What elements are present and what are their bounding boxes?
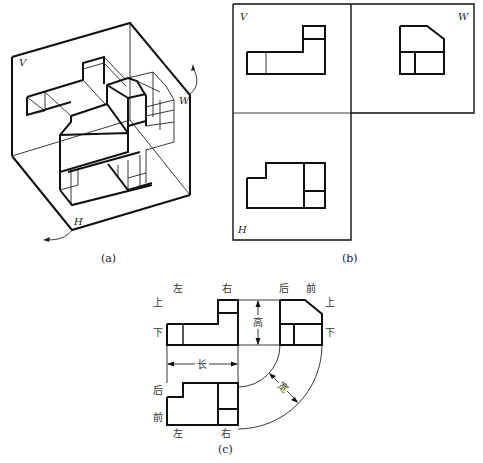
side-view-outline [400,26,444,74]
dimension-label-height: 高 [253,316,263,328]
panel-a-isometric: V W H (a) [12,23,197,265]
label-front-right: 右 [222,282,232,294]
object-front-block [60,116,128,172]
arrowhead-icon [291,397,298,403]
object-edge [83,57,104,84]
plane-label-v: V [19,57,28,68]
object-edge [27,80,83,97]
plane-label-h: H [237,224,247,235]
plane-label-w: W [458,11,469,22]
panel-b-unfolded-planes: V W H (b) [233,4,474,265]
object-edge [83,63,104,69]
label-top-left: 左 [173,427,183,439]
label-side-front: 前 [306,282,316,294]
plane-label-v: V [240,11,249,22]
plane-v-h-frame [233,4,351,240]
object-edge [27,97,71,115]
arrowhead-icon [256,300,261,307]
object-edge [60,185,78,190]
top-view-outline [247,163,325,208]
rotation-arrow-h [46,230,72,240]
plane-h-outline [12,156,190,230]
caption-c: (c) [218,443,233,456]
object-edge [68,152,140,172]
three-view-projection-figure: V W H (a) V W H (b) [0,0,483,463]
plane-label-h: H [73,216,83,227]
object-back-edge [128,72,174,150]
label-front-left: 左 [173,282,183,294]
arrowhead-icon [269,373,276,379]
caption-a: (a) [101,252,116,265]
label-top-right: 右 [221,427,231,439]
width-arc-inner [238,345,280,387]
plane-v-w-outline [12,23,190,195]
label-top-back: 后 [153,385,163,396]
plane-v-bottom-edge [12,120,130,156]
label-front-top: 上 [153,297,163,308]
object-edge [104,57,126,80]
object-edge [128,121,146,126]
arrowhead-icon [191,64,195,71]
label-side-bottom: 下 [325,327,335,338]
arrowhead-icon [43,237,50,242]
top-view-outline [167,383,238,425]
arrowhead-icon [256,338,261,345]
label-side-back: 后 [279,283,289,294]
object-edge [83,80,105,104]
plane-label-w: W [179,95,190,106]
plane-w-frame [233,4,474,113]
object-edge [128,94,146,98]
object-rounded-block [107,78,146,126]
side-view-outline [280,300,322,345]
axis-h-w [130,120,190,195]
caption-b: (b) [342,252,358,265]
label-front-bottom: 下 [153,327,163,338]
dimension-label-length: 长 [197,359,207,370]
object-edge [107,85,128,98]
label-side-top: 上 [325,297,335,308]
object-edge [128,173,146,178]
object-edge [27,97,45,111]
front-view-outline [247,26,325,74]
label-top-front: 前 [153,411,163,423]
arrowhead-icon [167,362,174,367]
panel-c-three-views: 高 长 宽 左 右 上 下 后 前 上 下 后 前 左 右 (c) [153,282,335,456]
object-edge [71,104,128,133]
arrowhead-icon [231,362,238,367]
rotation-arrow-w [190,68,197,94]
front-view-outline [167,300,238,345]
